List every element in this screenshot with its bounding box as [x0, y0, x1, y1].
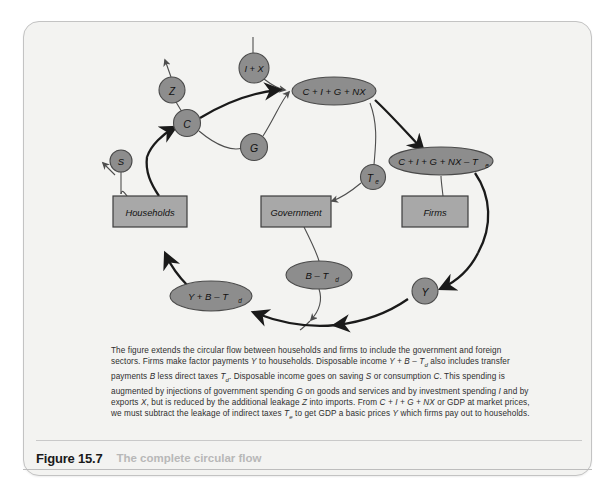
- figure-label-bar: Figure 15.7 The complete circular flow: [36, 447, 576, 469]
- flow-households-to-saving: [121, 191, 127, 196]
- caption-expr-gdp: C + I + G + NX: [380, 398, 435, 407]
- figure-page: Households Government Firms S Z: [0, 0, 615, 498]
- flow-expenditure-to-output: [375, 100, 422, 149]
- flow-disposable-income-up: [166, 255, 188, 286]
- caption-line-2b: to households. Disposable income: [257, 357, 390, 366]
- figure-title: The complete circular flow: [116, 452, 261, 464]
- box-firms-label: Firms: [423, 208, 447, 218]
- figure-number: Figure 15.7: [36, 451, 102, 466]
- node-indirect-taxes[interactable]: T e: [361, 165, 386, 190]
- node-investment-exports[interactable]: I + X: [239, 53, 269, 83]
- box-government[interactable]: Government: [261, 196, 331, 227]
- node-factor-income[interactable]: Y: [412, 278, 438, 304]
- caption-line-3c: . Disposable income goes on saving: [229, 372, 366, 381]
- figure-bottom-divider: [23, 469, 592, 470]
- leakage-injection-flows: [103, 37, 443, 330]
- caption-line-1: The figure extends the circular flow bet…: [111, 346, 473, 355]
- caption-line-5d: into imports. From: [307, 398, 377, 407]
- box-households-label: Households: [125, 208, 174, 218]
- caption-line-2c: also: [428, 357, 446, 366]
- caption-line-4c: on goods and services and by: [303, 387, 417, 396]
- flow-output-to-income: [442, 253, 478, 288]
- flow-output-right-arc: [475, 173, 488, 253]
- box-households[interactable]: Households: [113, 196, 187, 227]
- flow-households-up: [147, 157, 159, 196]
- flow-investment-exports-injection: [264, 79, 285, 90]
- node-total-expenditure[interactable]: C + I + G + NX: [292, 77, 376, 105]
- flow-imports-leakage-out: [165, 60, 171, 77]
- flow-income-bottom-arc: [336, 299, 408, 325]
- box-firms[interactable]: Firms: [402, 196, 468, 227]
- flow-government-to-transfers: [304, 227, 319, 261]
- node-government-spending[interactable]: G: [241, 134, 268, 161]
- flow-firms-to-basic-price-output: [441, 176, 443, 196]
- node-saving-label: S: [118, 156, 125, 167]
- node-consumption[interactable]: C: [174, 110, 201, 137]
- caption-line-7b: which firms pay out to households.: [398, 409, 529, 418]
- node-investment-exports-label: I + X: [244, 64, 264, 74]
- node-factor-income-label: Y: [421, 286, 429, 298]
- node-total-expenditure-label: C + I + G + NX: [302, 86, 366, 97]
- node-imports-label: Z: [168, 86, 176, 97]
- flow-nodes: S Z C I + X G C + I + G + NX: [110, 53, 493, 311]
- node-output-basic-prices-subscript: e: [485, 162, 489, 169]
- caption-line-6c: to get GDP: [293, 409, 337, 418]
- node-government-spending-label: G: [250, 142, 258, 154]
- node-saving[interactable]: S: [110, 150, 132, 172]
- flow-g-injection-to-expenditure: [263, 92, 289, 136]
- node-disposable-income[interactable]: Y + B – T d: [170, 281, 252, 311]
- flow-consumption-to-g-curve: [199, 131, 242, 149]
- caption-line-3d: or consumption: [371, 372, 431, 381]
- flow-to-disposable-income: [255, 313, 336, 326]
- node-output-basic-prices[interactable]: C + I + G + NX – T e: [389, 147, 493, 175]
- caption-divider: [36, 440, 582, 441]
- node-disposable-income-subscript: d: [238, 297, 242, 304]
- node-imports[interactable]: Z: [159, 77, 185, 103]
- circular-flow-diagram: Households Government Firms S Z: [23, 21, 592, 341]
- node-net-transfers-label: B – T: [306, 270, 330, 281]
- caption-line-7a: a basic prices: [339, 409, 393, 418]
- node-disposable-income-label: Y + B – T: [188, 291, 229, 302]
- box-government-label: Government: [270, 208, 322, 218]
- caption-expr-disposable: Y + B – T: [389, 357, 424, 366]
- node-indirect-taxes-label: T: [367, 173, 374, 184]
- flow-households-to-consumption: [147, 128, 174, 157]
- flow-transfers-to-disposable-income: [311, 289, 321, 320]
- sector-boxes: Households Government Firms: [113, 196, 468, 227]
- node-indirect-taxes-subscript: e: [375, 178, 379, 185]
- flow-indirect-taxes-to-government: [332, 183, 361, 201]
- flow-expenditure-to-indirect-taxes: [370, 103, 376, 165]
- caption-line-3b: less direct taxes: [155, 372, 220, 381]
- node-net-transfers-subscript: d: [335, 276, 339, 283]
- node-output-basic-prices-label: C + I + G + NX – T: [398, 156, 479, 167]
- node-net-transfers[interactable]: B – T d: [286, 261, 352, 289]
- caption-line-5a: investment spending: [419, 387, 498, 396]
- flow-consumption-to-expenditure: [200, 90, 278, 118]
- node-consumption-label: C: [183, 118, 191, 130]
- caption-line-5c: , but is reduced by the additional leaka…: [147, 398, 302, 407]
- figure-caption: The figure extends the circular flow bet…: [111, 345, 531, 422]
